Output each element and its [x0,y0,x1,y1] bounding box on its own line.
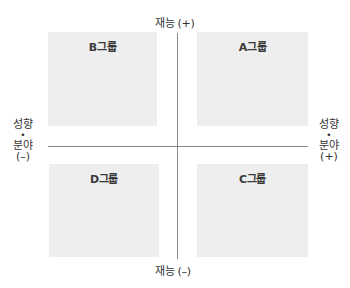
axis-label-tendency-negative: 성향 • 분야 (–) [3,119,43,163]
axis-label-tendency-positive: 성향 • 분야 (+) [309,119,349,163]
quadrant-label: C그룹 [197,170,308,186]
axis-label-talent-negative: 재능 (–) [155,262,191,278]
quadrant-c-group: C그룹 [197,164,308,257]
horizontal-axis-line [48,146,308,147]
quadrant-label: A그룹 [197,38,308,54]
quadrant-a-group: A그룹 [197,32,308,126]
side-label-line3: (+) [309,151,349,163]
side-label-line3: (–) [3,151,43,163]
quadrant-label: D그룹 [49,170,159,186]
quadrant-label: B그룹 [48,38,157,54]
side-label-line1: 성향 [309,119,349,131]
side-label-line1: 성향 [3,119,43,131]
quadrant-b-group: B그룹 [48,32,157,126]
quadrant-d-group: D그룹 [49,164,159,257]
axis-label-talent-positive: 재능 (+) [155,14,195,30]
